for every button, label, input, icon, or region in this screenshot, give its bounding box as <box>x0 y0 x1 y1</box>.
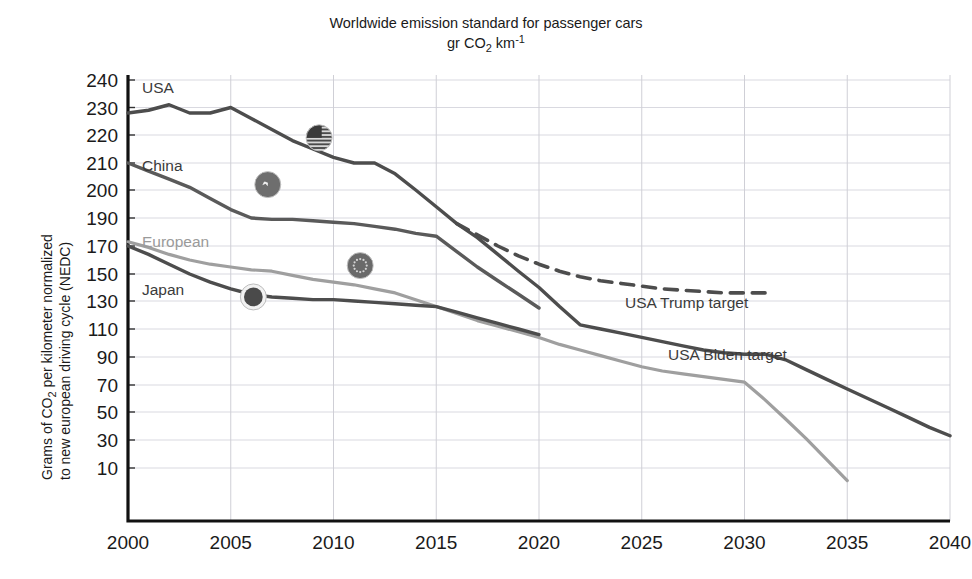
y-tick-label: 10 <box>97 458 118 479</box>
series-label-china: China <box>142 157 183 174</box>
y-tick-label: 90 <box>97 347 118 368</box>
subtitle-pre: gr CO <box>447 35 486 51</box>
y-tick-label: 30 <box>97 430 118 451</box>
x-tick-label: 2005 <box>210 532 252 553</box>
y-axis-label-line2: to new european driving cycle (NEDC) <box>57 242 73 480</box>
series-label-japan: Japan <box>142 281 184 298</box>
ylbl-pre: Grams of CO <box>39 397 55 480</box>
series-label-european: European <box>142 233 209 250</box>
x-tick-label: 2040 <box>929 532 971 553</box>
y-tick-label: 190 <box>86 208 118 229</box>
y-tick-label: 200 <box>86 180 118 201</box>
emission-standard-line-chart: Worldwide emission standard for passenge… <box>0 0 972 579</box>
y-tick-label: 110 <box>88 319 118 340</box>
y-tick-label: 50 <box>97 402 118 423</box>
y-tick-label: 230 <box>86 98 118 119</box>
subtitle-sup: -1 <box>515 33 525 45</box>
y-tick-label: 220 <box>86 125 118 146</box>
subtitle-mid: km <box>492 35 515 51</box>
x-tick-labels: 200020052010201520202025203020352040 <box>107 532 971 553</box>
x-tick-label: 2015 <box>415 532 457 553</box>
y-tick-label: 210 <box>86 153 118 174</box>
x-tick-label: 2025 <box>621 532 663 553</box>
x-tick-label: 2000 <box>107 532 149 553</box>
usa-flag <box>306 125 332 151</box>
x-tick-label: 2020 <box>518 532 560 553</box>
annotation-usa-trump-target: USA Trump target <box>625 294 749 311</box>
ylbl-post: per kilometer normalized <box>39 234 55 391</box>
chart-root: Worldwide emission standard for passenge… <box>0 0 972 579</box>
china-flag <box>255 172 281 198</box>
series-label-usa: USA <box>142 79 175 96</box>
chart-title: Worldwide emission standard for passenge… <box>329 15 642 31</box>
y-tick-label: 130 <box>86 291 118 312</box>
y-tick-label: 70 <box>97 375 118 396</box>
y-tick-label: 170 <box>86 236 118 257</box>
y-tick-label: 240 <box>86 70 118 91</box>
x-tick-label: 2010 <box>312 532 354 553</box>
y-tick-label: 150 <box>86 264 118 285</box>
annotation-usa-biden-target: USA Biden target <box>668 346 788 363</box>
eu-flag <box>347 253 373 279</box>
x-tick-label: 2035 <box>826 532 868 553</box>
x-tick-label: 2030 <box>723 532 765 553</box>
japan-flag <box>240 284 266 310</box>
